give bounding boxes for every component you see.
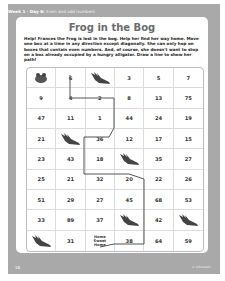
number-cell: 2 [86, 88, 115, 108]
number-cell: 35 [144, 149, 173, 169]
maze-grid: 6357942813754711144241921361217152343183… [26, 67, 204, 252]
number-cell: 33 [27, 210, 56, 230]
number-cell: 59 [174, 231, 203, 251]
number-cell: 27 [86, 190, 115, 210]
number-cell: 7 [174, 68, 203, 88]
number-cell: 1 [86, 109, 115, 129]
number-cell: 6 [56, 68, 85, 88]
number-cell: 15 [174, 129, 203, 149]
number-cell: 20 [115, 170, 144, 190]
number-cell: 47 [27, 109, 56, 129]
instructions: Help! Frances the Frog is lost in the bo… [24, 36, 202, 62]
number-cell: 8 [115, 88, 144, 108]
frog-icon [27, 68, 56, 88]
topic-label: Even and odd numbers [46, 9, 95, 14]
home-cell: Home Sweet Home [86, 231, 115, 251]
alligator-icon [174, 210, 203, 230]
number-cell: 53 [174, 190, 203, 210]
week-day-label: Week 1 · Day 6 [8, 9, 43, 14]
page-number: 18 [15, 265, 20, 270]
number-cell: 3 [115, 68, 144, 88]
number-cell: 13 [144, 88, 173, 108]
number-cell: 23 [27, 149, 56, 169]
number-cell: 4 [56, 88, 85, 108]
header-bar: Week 1 · Day 6: Even and odd numbers [8, 9, 95, 14]
number-cell: 44 [115, 109, 144, 129]
alligator-icon [115, 210, 144, 230]
page-title: Frog in the Bog [16, 22, 208, 33]
number-cell: 89 [56, 210, 85, 230]
alligator-icon [86, 68, 115, 88]
number-cell: 9 [27, 88, 56, 108]
number-cell: 38 [115, 231, 144, 251]
number-cell: 24 [144, 109, 173, 129]
number-cell: 37 [86, 210, 115, 230]
credit: © Scholastic [192, 265, 211, 269]
number-cell: 26 [174, 170, 203, 190]
number-cell: 64 [144, 231, 173, 251]
number-cell: 36 [86, 129, 115, 149]
number-cell: 75 [174, 88, 203, 108]
number-cell: 18 [86, 149, 115, 169]
number-cell: 68 [144, 190, 173, 210]
number-cell: 29 [56, 190, 85, 210]
number-cell: 17 [144, 129, 173, 149]
number-cell: 31 [56, 231, 85, 251]
alligator-icon [115, 149, 144, 169]
number-cell: 27 [174, 149, 203, 169]
alligator-icon [56, 129, 85, 149]
number-cell: 45 [115, 190, 144, 210]
number-cell: 11 [56, 109, 85, 129]
number-cell: 22 [144, 170, 173, 190]
alligator-icon [27, 231, 56, 251]
number-cell: 43 [56, 149, 85, 169]
number-cell: 12 [115, 129, 144, 149]
number-cell: 21 [56, 170, 85, 190]
number-cell: 19 [174, 109, 203, 129]
worksheet-card: Frog in the Bog Help! Frances the Frog i… [16, 17, 208, 253]
number-cell: 5 [144, 68, 173, 88]
number-cell: 21 [27, 129, 56, 149]
number-cell: 42 [144, 210, 173, 230]
number-cell: 25 [27, 170, 56, 190]
number-cell: 51 [27, 190, 56, 210]
number-cell: 32 [86, 170, 115, 190]
